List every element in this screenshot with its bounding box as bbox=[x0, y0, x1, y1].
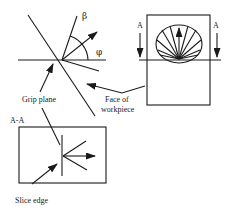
phi-angle-arc bbox=[70, 36, 88, 60]
section-label-left: A bbox=[137, 21, 143, 30]
section-fan-upper bbox=[63, 141, 86, 156]
section-fan-lower bbox=[63, 156, 87, 170]
section-label-right: A bbox=[213, 21, 219, 30]
face-label-line1: Face of bbox=[105, 95, 129, 104]
section-view: A-A Slice edge bbox=[10, 108, 106, 205]
slice-edge-label: Slice edge bbox=[15, 196, 49, 205]
face-view: A A bbox=[137, 15, 221, 105]
grip-diagram: β φ Grip plane Face of workpiece A A bbox=[0, 0, 229, 211]
beta-label: β bbox=[82, 11, 87, 21]
face-of-workpiece-arrow bbox=[87, 84, 145, 93]
phi-label: φ bbox=[96, 47, 102, 57]
lower-line bbox=[62, 60, 99, 71]
face-label-line2: workpiece bbox=[101, 105, 135, 114]
grip-plane-label: Grip plane bbox=[22, 95, 56, 104]
section-view-label: A-A bbox=[10, 116, 24, 125]
grip-plane-arrow bbox=[40, 64, 53, 92]
slice-edge-arrow bbox=[32, 164, 57, 184]
